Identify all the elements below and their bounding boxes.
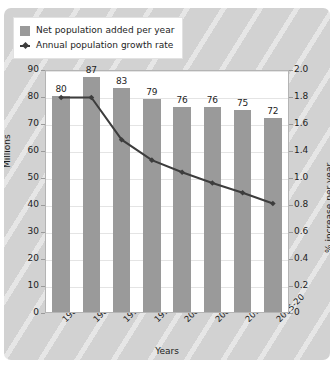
legend-item-growth-rate: Annual population growth rate xyxy=(20,39,174,52)
x-axis-title: Years xyxy=(4,346,330,356)
bar-value-label: 80 xyxy=(55,84,66,94)
plot-area: 8087837976767572 xyxy=(45,70,289,313)
bar-value-label: 76 xyxy=(207,95,218,105)
y-axis-right-tick-label: 0.4 xyxy=(294,254,324,263)
bar: 76 xyxy=(173,107,191,312)
y-axis-left-tick-label: 80 xyxy=(13,92,39,101)
bar-slot: 75 xyxy=(228,71,258,312)
legend-item-label: Annual population growth rate xyxy=(36,40,173,51)
y-axis-left-tick-label: 10 xyxy=(13,281,39,290)
bar-value-label: 79 xyxy=(146,87,157,97)
y-axis-left-tick-label: 90 xyxy=(13,65,39,74)
y-axis-left-tick-label: 40 xyxy=(13,200,39,209)
bar: 87 xyxy=(83,77,101,312)
axis-tick-mark xyxy=(289,178,293,179)
bar-value-label: 83 xyxy=(116,76,127,86)
line-marker-icon xyxy=(20,41,30,51)
axis-tick-mark xyxy=(289,97,293,98)
y-axis-right-tick-label: 1.8 xyxy=(294,92,324,101)
bar-slot: 76 xyxy=(197,71,227,312)
bar: 72 xyxy=(264,118,282,312)
y-axis-left-title: Millions xyxy=(4,134,12,168)
legend-item-label: Net population added per year xyxy=(36,25,174,36)
y-axis-right-tick-label: 1.0 xyxy=(294,173,324,182)
bar-slot: 83 xyxy=(107,71,137,312)
bar-series: 8087837976767572 xyxy=(46,71,288,312)
y-axis-left-tick-label: 30 xyxy=(13,227,39,236)
bar-value-label: 72 xyxy=(267,106,278,116)
y-axis-right-title: % increase per year xyxy=(324,163,330,253)
bar-slot: 72 xyxy=(258,71,288,312)
y-axis-left-tick-label: 50 xyxy=(13,173,39,182)
y-axis-right-tick-label: 0.8 xyxy=(294,200,324,209)
bar: 75 xyxy=(234,110,252,313)
y-axis-right-tick-label: 1.6 xyxy=(294,119,324,128)
bar: 79 xyxy=(143,99,161,312)
bar-value-label: 87 xyxy=(86,65,97,75)
bar-slot: 76 xyxy=(167,71,197,312)
y-axis-left-tick-label: 60 xyxy=(13,146,39,155)
y-axis-left-tick-label: 20 xyxy=(13,254,39,263)
y-axis-right-tick-label: 0.6 xyxy=(294,227,324,236)
bar-swatch-icon xyxy=(20,26,30,36)
y-axis-right-tick-label: 2.0 xyxy=(294,65,324,74)
bar-value-label: 76 xyxy=(176,95,187,105)
y-axis-right-tick-label: 0.2 xyxy=(294,281,324,290)
y-axis-right-tick-label: 1.4 xyxy=(294,146,324,155)
y-axis-right-tick-label: 0 xyxy=(294,308,324,317)
y-axis-left-tick-label: 0 xyxy=(13,308,39,317)
axis-tick-mark xyxy=(289,232,293,233)
bar: 80 xyxy=(52,96,70,312)
axis-tick-mark xyxy=(289,205,293,206)
axis-tick-mark xyxy=(289,259,293,260)
chart-legend: Net population added per year Annual pop… xyxy=(13,17,183,59)
axis-tick-mark xyxy=(289,286,293,287)
bar: 76 xyxy=(204,107,222,312)
bar-slot: 87 xyxy=(76,71,106,312)
axis-tick-mark xyxy=(289,70,293,71)
bar-value-label: 75 xyxy=(237,98,248,108)
y-axis-left-tick-label: 70 xyxy=(13,119,39,128)
bar-slot: 80 xyxy=(46,71,76,312)
axis-tick-mark xyxy=(289,124,293,125)
bar-slot: 79 xyxy=(137,71,167,312)
axis-tick-mark xyxy=(289,151,293,152)
bar: 83 xyxy=(113,88,131,312)
legend-item-net-population: Net population added per year xyxy=(20,24,174,37)
chart-panel: Net population added per year Annual pop… xyxy=(4,8,330,360)
